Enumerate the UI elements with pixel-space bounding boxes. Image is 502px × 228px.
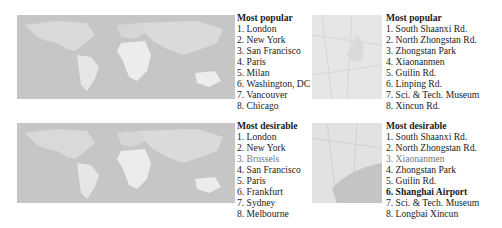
list-item: 5. Paris [237, 175, 301, 186]
city-map-image [312, 15, 382, 99]
list-item: 4. Xiaonanmen [386, 56, 479, 67]
city-popular-list: Most popular 1. South Shaanxi Rd. 2. Nor… [386, 12, 479, 111]
list-item: 2. New York [237, 34, 310, 45]
list-item: 6. Shanghai Airport [386, 186, 479, 197]
city-map-desirable [312, 123, 382, 203]
list-item: 3. Xiaonanmen [386, 153, 479, 164]
list-item: 5. Guilin Rd. [386, 175, 479, 186]
city-desirable-list: Most desirable 1. South Shaanxi Rd. 2. N… [386, 120, 479, 219]
list-item: 6. Washington, DC [237, 78, 310, 89]
list-item: 1. South Shaanxi Rd. [386, 131, 479, 142]
list-item: 4. Zhongstan Park [386, 164, 479, 175]
list-title: Most popular [237, 12, 310, 23]
list-item: 4. San Francisco [237, 164, 301, 175]
list-item: 3. San Francisco [237, 45, 310, 56]
list-item: 2. North Zhongstan Rd. [386, 34, 479, 45]
list-title: Most desirable [386, 120, 479, 131]
list-item: 7. Sydney [237, 197, 301, 208]
list-item: 6. Linping Rd. [386, 78, 479, 89]
list-item: 8. Chicago [237, 100, 310, 111]
world-map-image [17, 123, 235, 203]
list-item: 3. Zhongstan Park [386, 45, 479, 56]
list-item: 8. Longbai Xincun [386, 208, 479, 219]
list-item: 7. Vancouver [237, 89, 310, 100]
city-map-popular [312, 15, 382, 99]
list-item: 8. Melbourne [237, 208, 301, 219]
list-item: 1. South Shaanxi Rd. [386, 23, 479, 34]
list-item: 5. Milan [237, 67, 310, 78]
list-item: 5. Guilin Rd. [386, 67, 479, 78]
list-item: 7. Sci. & Tech. Museum [386, 197, 479, 208]
list-item: 2. New York [237, 142, 301, 153]
world-desirable-list: Most desirable 1. London 2. New York 3. … [237, 120, 301, 219]
list-item: 4. Paris [237, 56, 310, 67]
world-map-popular [17, 15, 235, 99]
list-title: Most popular [386, 12, 479, 23]
list-item: 1. London [237, 131, 301, 142]
city-map-image [312, 123, 382, 203]
list-item: 1. London [237, 23, 310, 34]
world-map-image [17, 15, 235, 99]
list-title: Most desirable [237, 120, 301, 131]
world-map-desirable [17, 123, 235, 203]
list-item: 3. Brussels [237, 153, 301, 164]
list-item: 8. Xincun Rd. [386, 100, 479, 111]
list-item: 7. Sci. & Tech. Museum [386, 89, 479, 100]
list-item: 6. Frankfurt [237, 186, 301, 197]
world-popular-list: Most popular 1. London 2. New York 3. Sa… [237, 12, 310, 111]
list-item: 2. North Zhongstan Rd. [386, 142, 479, 153]
